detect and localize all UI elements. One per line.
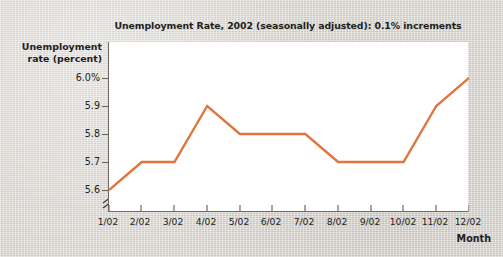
x-tick-marks: [109, 205, 469, 212]
y-axis-title: Unemployment rate (percent): [14, 41, 102, 65]
plot-area: [108, 42, 468, 212]
y-tick-label-6-0: 6.0%: [56, 72, 100, 83]
y-tick-label-5-9: 5.9: [56, 100, 100, 111]
x-axis-title: Month: [457, 233, 491, 244]
y-axis-title-line-2: rate (percent): [14, 53, 102, 65]
y-axis-title-line-1: Unemployment: [14, 41, 102, 53]
x-tick-label-12: 12/02: [447, 216, 489, 227]
y-tick-label-5-7: 5.7: [56, 156, 100, 167]
chart-title: Unemployment Rate, 2002 (seasonally adju…: [108, 20, 468, 31]
y-tick-label-5-6: 5.6: [56, 184, 100, 195]
plot-svg: [109, 42, 469, 212]
chart-figure: Unemployment Rate, 2002 (seasonally adju…: [0, 0, 503, 257]
data-series-line: [109, 78, 469, 190]
y-tick-label-5-8: 5.8: [56, 128, 100, 139]
